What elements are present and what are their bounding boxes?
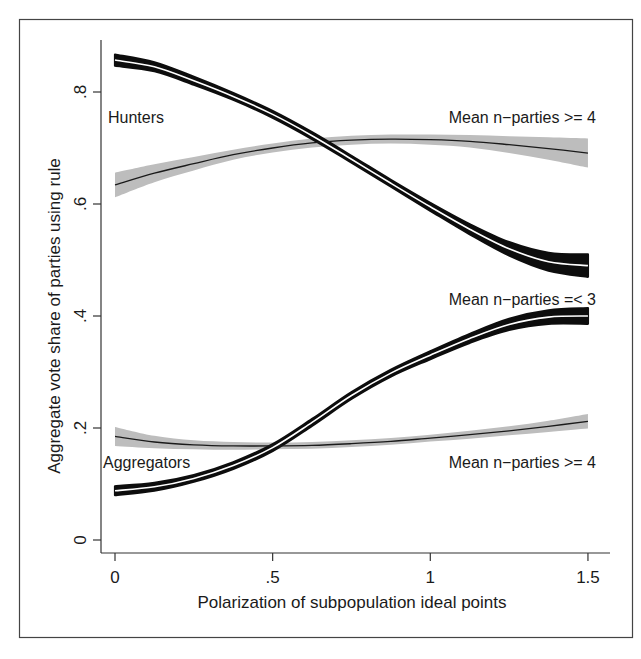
y-tick-label: 0	[71, 535, 90, 544]
annotation-mean-n-parties-3: Mean n−parties =< 3	[449, 291, 596, 308]
x-tick-label: 1	[426, 568, 435, 587]
annotation-aggregators: Aggregators	[103, 454, 190, 471]
chart: 0.2.4.6.8 0.511.5 Polarization of subpop…	[0, 0, 641, 659]
x-tick-label: 0	[110, 568, 119, 587]
y-tick-label: .6	[71, 197, 90, 211]
x-axis-label: Polarization of subpopulation ideal poin…	[197, 593, 506, 612]
annotation-mean-n-parties-4: Mean n−parties >= 4	[449, 109, 596, 126]
annotation-hunters: Hunters	[108, 109, 164, 126]
x-tick-label: .5	[266, 568, 280, 587]
y-tick-label: .4	[71, 309, 90, 323]
annotation-mean-n-parties-4: Mean n−parties >= 4	[449, 454, 596, 471]
y-axis-label: Aggregate vote share of parties using ru…	[45, 158, 64, 474]
y-tick-label: .2	[71, 421, 90, 435]
x-tick-label: 1.5	[576, 568, 600, 587]
y-tick-label: .8	[71, 85, 90, 99]
